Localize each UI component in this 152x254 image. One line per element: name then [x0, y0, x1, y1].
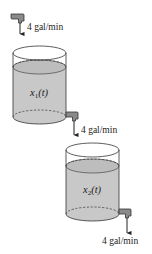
inflow-rate-label: 4 gal/min — [27, 22, 63, 32]
tank-1 — [13, 46, 66, 124]
transfer-rate-label: 4 gal/min — [81, 125, 117, 135]
transfer-pipe — [66, 112, 78, 135]
pipe-icon — [119, 209, 131, 218]
outflow-pipe — [119, 209, 131, 233]
pipe-icon — [11, 14, 24, 23]
inflow-pipe — [11, 14, 24, 34]
two-tank-diagram: 4 gal/min x1(t) 4 gal/min x2(t) — [0, 0, 152, 254]
tank-1-rim — [13, 46, 66, 60]
tank-2-rim — [66, 143, 119, 157]
tank-2 — [66, 143, 119, 221]
outflow-rate-label: 4 gal/min — [102, 236, 138, 246]
pipe-icon — [66, 112, 78, 121]
